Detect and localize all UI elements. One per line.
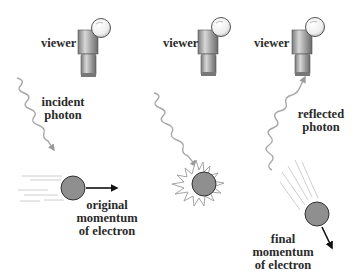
colliding-photon-wave	[154, 93, 196, 166]
electron-1	[61, 176, 85, 200]
viewer-microscope-2	[198, 18, 231, 77]
reflected-photon-label-line2: photon	[295, 121, 347, 134]
incident-photon-label: incident photon	[40, 96, 86, 122]
viewer-label-2: viewer	[163, 37, 198, 50]
electron-3	[305, 202, 329, 226]
viewer-label-1: viewer	[41, 37, 76, 50]
final-momentum-label: final momentum of electron	[252, 233, 314, 272]
final-momentum-arrow	[322, 227, 332, 248]
electron-1-motion-trails	[18, 176, 64, 201]
viewer-label-3: viewer	[254, 37, 289, 50]
original-momentum-label: original momentum of electron	[76, 199, 138, 238]
viewer-microscope-3	[292, 18, 325, 77]
reflected-photon-label: reflected photon	[295, 108, 347, 134]
original-momentum-label-line3: of electron	[76, 225, 138, 238]
final-momentum-label-line3: of electron	[252, 259, 314, 272]
incident-photon-label-line2: photon	[40, 109, 86, 122]
viewer-microscope-1	[78, 19, 111, 78]
electron-2	[192, 172, 216, 196]
